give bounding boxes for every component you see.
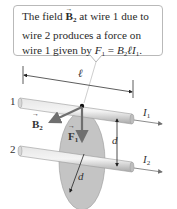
field-vector-label: B2: [32, 118, 43, 132]
distance-radius-label: d: [78, 170, 84, 182]
wire-2-label: 2: [10, 143, 16, 155]
wire-1-label: 1: [10, 95, 16, 107]
distance-vertical-label: d: [112, 134, 118, 146]
force-letter: F: [68, 130, 75, 142]
force-subscript: 1: [75, 136, 79, 144]
force-vector-label: F1: [68, 130, 78, 144]
callout-pointer: [84, 55, 102, 103]
distance-symbol: d: [78, 170, 84, 182]
current-subscript: 2: [147, 159, 151, 167]
current-1-label: I1: [143, 106, 150, 120]
length-label: ℓ: [78, 67, 83, 79]
current-subscript: 1: [147, 112, 151, 120]
current-2-label: I2: [143, 153, 150, 167]
length-symbol: ℓ: [78, 67, 83, 79]
distance-symbol: d: [112, 134, 118, 146]
wire-diagram: [0, 0, 177, 209]
field-subscript: 2: [39, 124, 43, 132]
